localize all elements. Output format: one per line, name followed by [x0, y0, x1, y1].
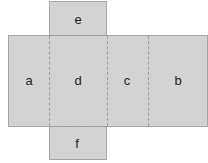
face-label-c: c	[124, 74, 131, 87]
face-label-d: d	[74, 74, 81, 87]
face-label-e: e	[74, 13, 81, 26]
fold-line-c-b	[148, 36, 149, 126]
fold-line-d-f	[50, 126, 107, 127]
fold-line-e-d	[50, 35, 107, 36]
fold-line-a-d	[49, 36, 50, 126]
face-label-b: b	[174, 74, 181, 87]
fold-line-d-c	[107, 36, 108, 126]
face-label-a: a	[25, 74, 32, 87]
face-label-f: f	[75, 137, 79, 150]
